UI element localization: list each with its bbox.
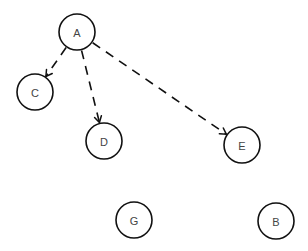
- dashed-edge-line: [46, 48, 66, 77]
- edge-a-to-e: [93, 43, 227, 135]
- nodes-layer: ACDEGB: [17, 14, 294, 239]
- node-e[interactable]: E: [224, 127, 260, 163]
- dashed-edge-line: [93, 43, 227, 135]
- node-c[interactable]: C: [17, 74, 53, 110]
- node-label: G: [130, 215, 139, 227]
- node-d[interactable]: D: [86, 123, 122, 159]
- dashed-edge-line: [82, 50, 100, 122]
- node-label: C: [31, 87, 39, 99]
- node-label: E: [238, 140, 245, 152]
- arrowhead-icon: [219, 128, 226, 134]
- node-g[interactable]: G: [116, 202, 152, 238]
- graph-diagram: ACDEGB: [0, 0, 308, 251]
- arrowhead-icon: [46, 69, 52, 76]
- node-a[interactable]: A: [59, 14, 95, 50]
- edge-a-to-d: [82, 50, 102, 122]
- edges-layer: [46, 43, 226, 135]
- node-label: D: [100, 136, 108, 148]
- edge-a-to-c: [46, 48, 66, 77]
- node-b[interactable]: B: [258, 203, 294, 239]
- node-label: A: [73, 27, 81, 39]
- node-label: B: [272, 216, 279, 228]
